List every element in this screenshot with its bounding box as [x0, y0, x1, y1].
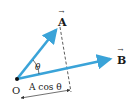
vector-projection-diagram: A → B → θ O A cos θ [0, 0, 135, 105]
angle-theta-label: θ [35, 62, 41, 72]
vector-a-arrow-mark: → [59, 8, 65, 16]
origin-label: O [12, 85, 20, 96]
vector-a-label: A [57, 16, 67, 29]
vector-b-label: B [117, 54, 126, 67]
vector-b-arrow-mark: → [118, 46, 124, 54]
origin-point [15, 77, 19, 81]
projection-label: A cos θ [28, 82, 62, 92]
